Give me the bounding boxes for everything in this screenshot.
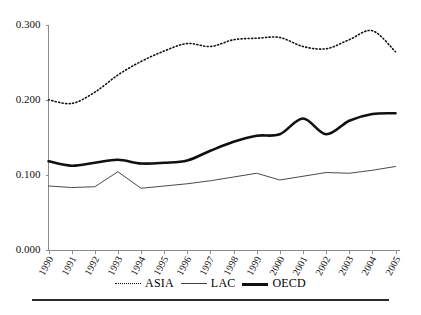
x-tick-label: 1998 [221, 254, 240, 277]
line-chart-plot: 0.0000.1000.2000.300 1990199119921993199… [0, 0, 421, 315]
y-tick-label: 0.100 [16, 168, 41, 180]
y-tick-label: 0.200 [16, 93, 41, 105]
x-tick-label: 2005 [383, 254, 402, 277]
chart-legend: ASIA LAC OECD [0, 277, 421, 289]
x-tick-label: 1999 [244, 254, 263, 277]
legend-item-asia: ASIA [115, 277, 174, 289]
x-tick-label: 2003 [336, 254, 355, 277]
legend-item-oecd: OECD [242, 277, 305, 289]
series-line-oecd [49, 113, 396, 166]
x-tick-label: 1991 [59, 254, 78, 277]
x-tick-label: 2004 [359, 254, 378, 277]
x-tick-label: 2000 [267, 254, 286, 277]
legend-item-lac: LAC [181, 277, 236, 289]
x-tick-label: 2001 [290, 254, 309, 277]
series-line-lac [49, 167, 396, 189]
x-tick-label: 1994 [128, 254, 147, 277]
y-tick-label-group: 0.0000.1000.2000.300 [16, 18, 41, 255]
chart-figure: 0.0000.1000.2000.300 1990199119921993199… [0, 0, 421, 315]
x-tick-label: 2002 [313, 254, 332, 277]
legend-swatch-thick-line-icon [242, 279, 268, 287]
legend-label-asia: ASIA [145, 277, 174, 289]
figure-bottom-rule [32, 299, 389, 301]
x-tick-label: 1990 [36, 254, 55, 277]
series-line-asia [49, 30, 396, 103]
x-tick-label-group: 1990199119921993199419951996199719981999… [36, 254, 402, 277]
legend-swatch-dotted-icon [115, 279, 141, 287]
series-group [49, 30, 396, 188]
legend-label-oecd: OECD [272, 277, 305, 289]
y-tick-label: 0.300 [16, 18, 41, 30]
x-tick-label: 1995 [151, 254, 170, 277]
legend-label-lac: LAC [211, 277, 236, 289]
y-tick-label: 0.000 [16, 243, 41, 255]
legend-swatch-thin-line-icon [181, 279, 207, 287]
x-tick-label: 1996 [174, 254, 193, 277]
x-tick-label: 1993 [105, 254, 124, 277]
x-tick-label: 1997 [197, 254, 216, 277]
x-tick-label: 1992 [82, 254, 101, 277]
